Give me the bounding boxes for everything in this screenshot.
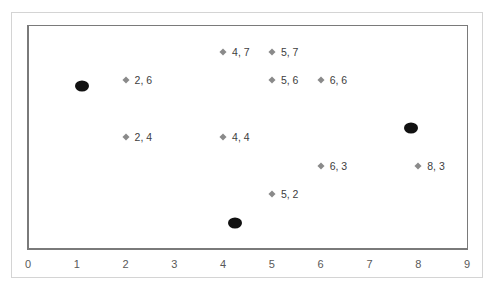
- x-tick-label: 2: [122, 258, 128, 270]
- x-tick-label: 3: [171, 258, 177, 270]
- x-tick-label: 4: [220, 258, 226, 270]
- data-label: 5, 6: [281, 74, 299, 86]
- data-label: 5, 2: [281, 188, 299, 200]
- centroid-dot-icon: [404, 123, 418, 134]
- x-tick-label: 7: [366, 258, 372, 270]
- data-label: 5, 7: [281, 46, 299, 58]
- x-tick-label: 6: [318, 258, 324, 270]
- data-label: 8, 3: [427, 160, 445, 172]
- x-tick-label: 5: [269, 258, 275, 270]
- x-tick-label: 0: [25, 258, 31, 270]
- centroid-dot-icon: [228, 217, 242, 228]
- x-tick-label: 8: [415, 258, 421, 270]
- data-label: 2, 6: [135, 74, 153, 86]
- data-label: 4, 4: [232, 131, 250, 143]
- data-label: 2, 4: [135, 131, 153, 143]
- centroid-dot-icon: [75, 80, 89, 91]
- data-label: 6, 3: [330, 160, 348, 172]
- data-label: 4, 7: [232, 46, 250, 58]
- data-label: 6, 6: [330, 74, 348, 86]
- x-tick-label: 1: [74, 258, 80, 270]
- x-tick-label: 9: [464, 258, 470, 270]
